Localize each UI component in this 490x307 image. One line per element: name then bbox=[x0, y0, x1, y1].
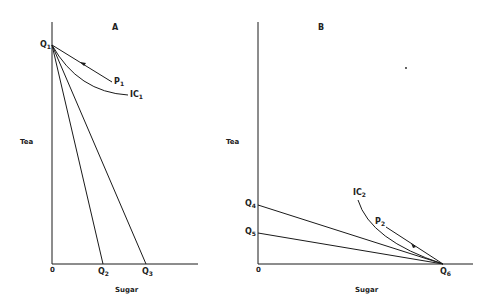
panel-b-y-axis-label: Tea bbox=[226, 138, 240, 146]
ic2-curve bbox=[358, 200, 443, 264]
panel-a-x-axis-label: Sugar bbox=[115, 286, 139, 294]
panel-a-origin-label: 0 bbox=[50, 266, 55, 274]
budget-line-q5-q6 bbox=[258, 233, 443, 264]
q1-label: Q1 bbox=[40, 40, 51, 50]
panel-b-x-axis-label: Sugar bbox=[355, 286, 379, 294]
panel-a-y-axis-label: Tea bbox=[20, 138, 34, 146]
p1-label: P1 bbox=[114, 77, 124, 87]
panel-b-title: B bbox=[318, 23, 324, 32]
panel-a-title: A bbox=[112, 23, 119, 32]
panel-a: A Q1 P1 IC1 Tea 0 Q2 Q3 Sugar bbox=[20, 22, 198, 294]
q6-label: Q6 bbox=[440, 267, 451, 277]
panel-b: B IC2 P2 Q4 Q5 Tea 0 Q6 Sugar bbox=[226, 22, 473, 294]
diagram-canvas: A Q1 P1 IC1 Tea 0 Q2 Q3 Sugar B bbox=[0, 0, 490, 307]
q2-label: Q2 bbox=[98, 267, 109, 277]
ic2-label: IC2 bbox=[353, 188, 366, 198]
q4-label: Q4 bbox=[245, 199, 256, 209]
budget-line-q4-q6 bbox=[258, 205, 443, 264]
budget-line-q1-q3 bbox=[52, 45, 146, 264]
panel-b-origin-label: 0 bbox=[256, 266, 261, 274]
p2-line bbox=[386, 227, 443, 264]
budget-line-q1-q2 bbox=[52, 45, 103, 264]
p2-label: P2 bbox=[375, 217, 385, 227]
q3-label: Q3 bbox=[142, 267, 153, 277]
ic1-label: IC1 bbox=[130, 90, 143, 100]
q5-label: Q5 bbox=[245, 227, 256, 237]
stray-dot bbox=[405, 67, 407, 69]
